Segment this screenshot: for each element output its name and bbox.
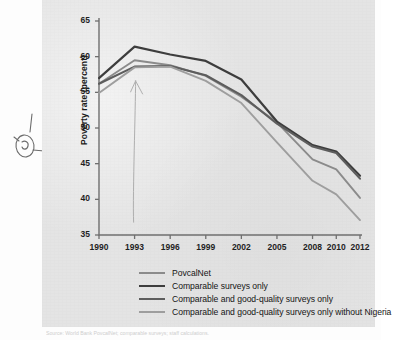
x-tick-label-1993: 1993 bbox=[118, 242, 152, 252]
y-tick-label-35: 35 bbox=[68, 229, 90, 239]
legend-swatch-line-icon bbox=[139, 285, 165, 287]
y-tick-label-40: 40 bbox=[68, 193, 90, 203]
x-tick-label-1990: 1990 bbox=[82, 242, 116, 252]
y-tick-label-55: 55 bbox=[68, 86, 90, 96]
legend-item-1: Comparable surveys only bbox=[139, 279, 396, 292]
series-line-2 bbox=[99, 66, 360, 179]
figure-panel: Poverty rate (percent) PovcalNetComparab… bbox=[42, 0, 375, 327]
legend-item-0: PovcalNet bbox=[139, 266, 396, 279]
legend-swatch-line-icon bbox=[139, 298, 165, 300]
x-tick-label-2002: 2002 bbox=[224, 242, 258, 252]
y-tick-label-65: 65 bbox=[68, 15, 90, 25]
legend-label: PovcalNet bbox=[172, 268, 211, 278]
legend-label: Comparable and good-quality surveys only… bbox=[172, 307, 391, 317]
series-line-0 bbox=[99, 60, 360, 198]
x-tick-label-2005: 2005 bbox=[260, 242, 294, 252]
x-tick-label-2012: 2012 bbox=[343, 242, 377, 252]
y-tick-label-45: 45 bbox=[68, 158, 90, 168]
x-tick-label-1996: 1996 bbox=[153, 242, 187, 252]
legend-swatch-line-icon bbox=[139, 272, 165, 274]
legend-label: Comparable and good-quality surveys only bbox=[172, 294, 333, 304]
legend-item-3: Comparable and good-quality surveys only… bbox=[139, 305, 396, 318]
legend-label: Comparable surveys only bbox=[172, 281, 268, 291]
figure-source-caption: Source: World Bank PovcalNet; comparable… bbox=[46, 330, 346, 336]
y-tick-label-50: 50 bbox=[68, 122, 90, 132]
chart-legend: PovcalNetComparable surveys onlyComparab… bbox=[139, 266, 396, 318]
x-tick-label-1999: 1999 bbox=[189, 242, 223, 252]
y-tick-label-60: 60 bbox=[68, 51, 90, 61]
legend-item-2: Comparable and good-quality surveys only bbox=[139, 292, 396, 305]
legend-swatch-line-icon bbox=[139, 311, 165, 313]
